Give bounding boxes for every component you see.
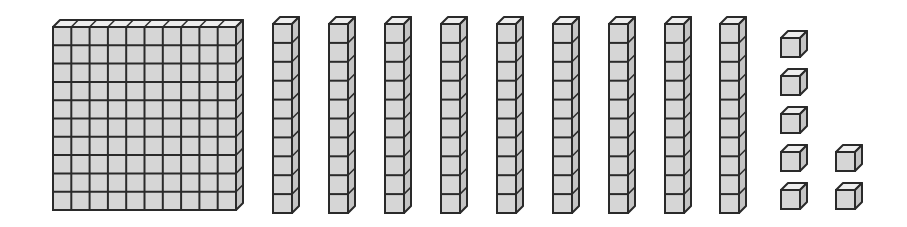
- unit-cube: [836, 183, 862, 209]
- unit-cube: [836, 145, 862, 171]
- unit-cube: [781, 183, 807, 209]
- tens-rod: [273, 17, 299, 213]
- unit-cube: [781, 31, 807, 57]
- tens-rod: [720, 17, 746, 213]
- tens-rod: [497, 17, 523, 213]
- tens-rod: [385, 17, 411, 213]
- tens-rod: [553, 17, 579, 213]
- tens-rod: [665, 17, 691, 213]
- hundreds-flat: [53, 20, 243, 210]
- unit-cube: [781, 69, 807, 95]
- unit-cube: [781, 107, 807, 133]
- tens-rod: [441, 17, 467, 213]
- unit-cube: [781, 145, 807, 171]
- tens-rod: [609, 17, 635, 213]
- tens-rod: [329, 17, 355, 213]
- base-ten-blocks-diagram: [0, 0, 907, 227]
